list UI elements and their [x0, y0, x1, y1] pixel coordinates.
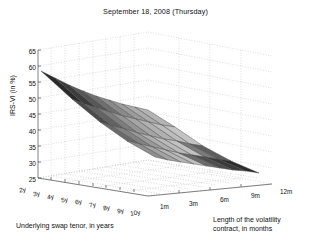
y-tick-1m: 1m: [160, 203, 169, 210]
y-axis-label-line2: contract, in months: [213, 224, 281, 233]
surface-plot-figure: September 18, 2008 (Thursday) IRS-VI (in…: [0, 0, 311, 250]
y-tick-12m: 12m: [280, 188, 292, 195]
y-axis-label: Length of the volatility contract, in mo…: [213, 215, 281, 233]
x-tick-4y: 4y: [46, 193, 54, 201]
y-tick-6m: 6m: [220, 196, 229, 203]
x-tick-7y: 7y: [88, 201, 96, 209]
x-tick-6y: 6y: [74, 198, 82, 206]
y-tick-9m: 9m: [251, 192, 260, 199]
x-tick-5y: 5y: [60, 196, 68, 204]
plot-canvas: [0, 0, 311, 250]
volatility-surface: [41, 71, 259, 173]
x-tick-8y: 8y: [102, 204, 110, 212]
x-axis-label: Underlying swap tenor, in years: [16, 222, 114, 229]
x-tick-2y: 2y: [18, 186, 26, 194]
y-tick-3m: 3m: [189, 200, 198, 207]
x-tick-3y: 3y: [32, 190, 40, 198]
y-axis-label-line1: Length of the volatility: [213, 215, 281, 224]
x-tick-9y: 9y: [116, 207, 124, 215]
